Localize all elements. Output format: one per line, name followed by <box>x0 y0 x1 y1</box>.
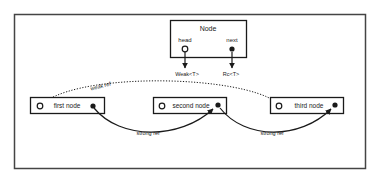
linked-list-diagram: Node head next Weak<T> Rc<T> weak ref fi… <box>0 0 378 180</box>
list-node-third: third node <box>271 98 344 114</box>
strong-ref-label-1: strong ref <box>136 130 160 136</box>
strong-filled-dot-icon <box>215 102 220 107</box>
weak-open-circle-icon <box>276 103 282 109</box>
weak-ref-label: weak ref <box>89 81 112 92</box>
field-head-label: head <box>178 37 191 43</box>
field-next-label: next <box>226 37 238 43</box>
weak-open-circle-icon <box>159 103 165 109</box>
rc-type-label: Rc<T> <box>223 71 240 77</box>
next-filled-dot-icon <box>229 46 234 51</box>
head-open-circle-icon <box>182 46 188 52</box>
third-node-label: third node <box>295 102 324 109</box>
struct-node-box: Node head next <box>171 21 247 58</box>
strong-filled-dot-icon <box>332 102 337 107</box>
first-node-label: first node <box>54 102 81 109</box>
struct-node-title: Node <box>200 25 217 32</box>
weak-type-label: Weak<T> <box>175 71 199 77</box>
second-node-label: second node <box>172 102 210 109</box>
list-node-second: second node <box>154 98 227 114</box>
list-node-first: first node <box>31 98 105 114</box>
strong-filled-dot-icon <box>90 103 95 108</box>
weak-open-circle-icon <box>37 103 43 109</box>
strong-ref-label-2: strong ref <box>260 130 284 136</box>
